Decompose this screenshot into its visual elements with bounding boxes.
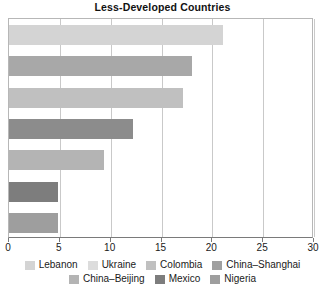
legend-item-label: China–Beijing: [83, 273, 145, 285]
legend-swatch-icon: [146, 261, 156, 270]
chart-title: Less-Developed Countries: [0, 1, 325, 14]
legend-item-label: Colombia: [160, 259, 202, 271]
legend-item[interactable]: Mexico: [155, 273, 201, 285]
legend-row: LebanonUkraineColombiaChina–Shanghai: [0, 258, 325, 272]
legend-swatch-icon: [88, 261, 98, 270]
chart-container: Less-Developed Countries 051015202530 Le…: [0, 0, 325, 288]
x-tick-label: 5: [56, 242, 62, 254]
plot-area: [8, 18, 313, 238]
bar: [9, 213, 58, 233]
x-tick-label: 20: [206, 242, 217, 254]
legend-item-label: Nigeria: [224, 273, 256, 285]
chart-legend: LebanonUkraineColombiaChina–Shanghai Chi…: [0, 258, 325, 288]
legend-item[interactable]: Colombia: [146, 259, 202, 271]
bar: [9, 25, 223, 45]
bar: [9, 119, 133, 139]
legend-swatch-icon: [25, 261, 35, 270]
legend-item-label: China–Shanghai: [226, 259, 300, 271]
legend-item[interactable]: Lebanon: [25, 259, 78, 271]
legend-item-label: Mexico: [169, 273, 201, 285]
x-axis: 051015202530: [8, 238, 313, 256]
x-tick-label: 25: [257, 242, 268, 254]
gridline: [314, 19, 315, 237]
bar: [9, 150, 104, 170]
legend-row: China–BeijingMexicoNigeria: [0, 272, 325, 286]
bar: [9, 182, 58, 202]
bar: [9, 56, 192, 76]
bar: [9, 88, 183, 108]
legend-item-label: Ukraine: [102, 259, 136, 271]
bars-layer: [9, 19, 312, 237]
legend-swatch-icon: [210, 275, 220, 284]
x-tick-label: 0: [5, 242, 11, 254]
x-tick-label: 30: [307, 242, 318, 254]
x-tick-label: 15: [155, 242, 166, 254]
legend-swatch-icon: [155, 275, 165, 284]
legend-item[interactable]: China–Shanghai: [212, 259, 300, 271]
legend-item[interactable]: Nigeria: [210, 273, 256, 285]
legend-item[interactable]: China–Beijing: [69, 273, 145, 285]
legend-item-label: Lebanon: [39, 259, 78, 271]
x-tick-label: 10: [104, 242, 115, 254]
legend-swatch-icon: [212, 261, 222, 270]
legend-item[interactable]: Ukraine: [88, 259, 136, 271]
legend-swatch-icon: [69, 275, 79, 284]
